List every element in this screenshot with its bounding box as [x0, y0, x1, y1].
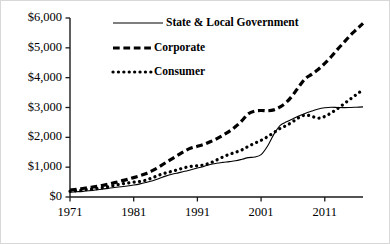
- y-tick-label: $6,000: [1, 10, 62, 25]
- y-tick-label: $0: [1, 189, 62, 204]
- y-tick-label: $5,000: [1, 40, 62, 55]
- legend-label-consumer: Consumer: [154, 65, 205, 77]
- y-tick-label: $2,000: [1, 129, 62, 144]
- chart-container: $0$1,000$2,000$3,000$4,000$5,000$6,000 1…: [0, 0, 390, 244]
- legend-label-corporate: Corporate: [154, 41, 205, 53]
- y-tick-label: $3,000: [1, 100, 62, 115]
- x-tick-label: 2011: [299, 205, 351, 220]
- axis-lines: [70, 18, 363, 197]
- y-tick-label: $4,000: [1, 70, 62, 85]
- x-tick-label: 1991: [171, 205, 223, 220]
- x-tick-label: 1971: [44, 205, 96, 220]
- x-tick-label: 1981: [108, 205, 160, 220]
- y-tick-label: $1,000: [1, 159, 62, 174]
- x-tick-label: 2001: [235, 205, 287, 220]
- legend-label-state-local-government: State & Local Government: [166, 16, 299, 28]
